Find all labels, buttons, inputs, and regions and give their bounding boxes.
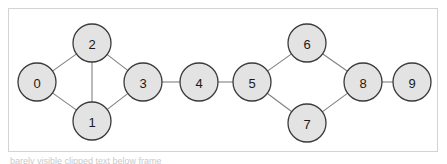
graph-edge-5-6 <box>267 53 293 71</box>
graph-node-label-3: 3 <box>139 76 146 91</box>
graph-node-3[interactable]: 3 <box>124 63 162 101</box>
graph-node-5[interactable]: 5 <box>233 63 271 101</box>
graph-edge-2-3 <box>106 54 128 71</box>
graph-node-label-9: 9 <box>408 76 415 91</box>
graph-edge-1-3 <box>106 93 128 110</box>
graph-edge-0-2 <box>52 53 78 71</box>
graph-node-label-6: 6 <box>303 37 310 52</box>
graph-canvas: 0123456789 <box>0 0 447 164</box>
graph-node-8[interactable]: 8 <box>344 63 382 101</box>
graph-figure: 0123456789 barely visible clipped text b… <box>0 0 447 164</box>
graph-node-label-1: 1 <box>88 115 95 130</box>
graph-node-1[interactable]: 1 <box>73 102 111 140</box>
graph-node-label-0: 0 <box>33 76 40 91</box>
graph-node-4[interactable]: 4 <box>180 63 218 101</box>
graph-node-6[interactable]: 6 <box>288 24 326 62</box>
graph-node-label-4: 4 <box>195 76 202 91</box>
graph-edge-5-7 <box>266 93 292 112</box>
graph-node-label-2: 2 <box>88 37 95 52</box>
graph-node-9[interactable]: 9 <box>393 63 431 101</box>
graph-edge-7-8 <box>322 93 349 113</box>
graph-node-label-8: 8 <box>359 76 366 91</box>
graph-node-0[interactable]: 0 <box>18 63 56 101</box>
graph-node-label-5: 5 <box>248 76 255 91</box>
caption-bleed-text: barely visible clipped text below frame <box>10 156 437 164</box>
graph-node-2[interactable]: 2 <box>73 24 111 62</box>
graph-edge-6-8 <box>322 53 348 71</box>
graph-edge-0-1 <box>52 92 78 110</box>
edge-layer <box>52 53 394 112</box>
graph-node-7[interactable]: 7 <box>288 104 326 142</box>
graph-node-label-7: 7 <box>303 117 310 132</box>
node-layer: 0123456789 <box>18 24 431 142</box>
